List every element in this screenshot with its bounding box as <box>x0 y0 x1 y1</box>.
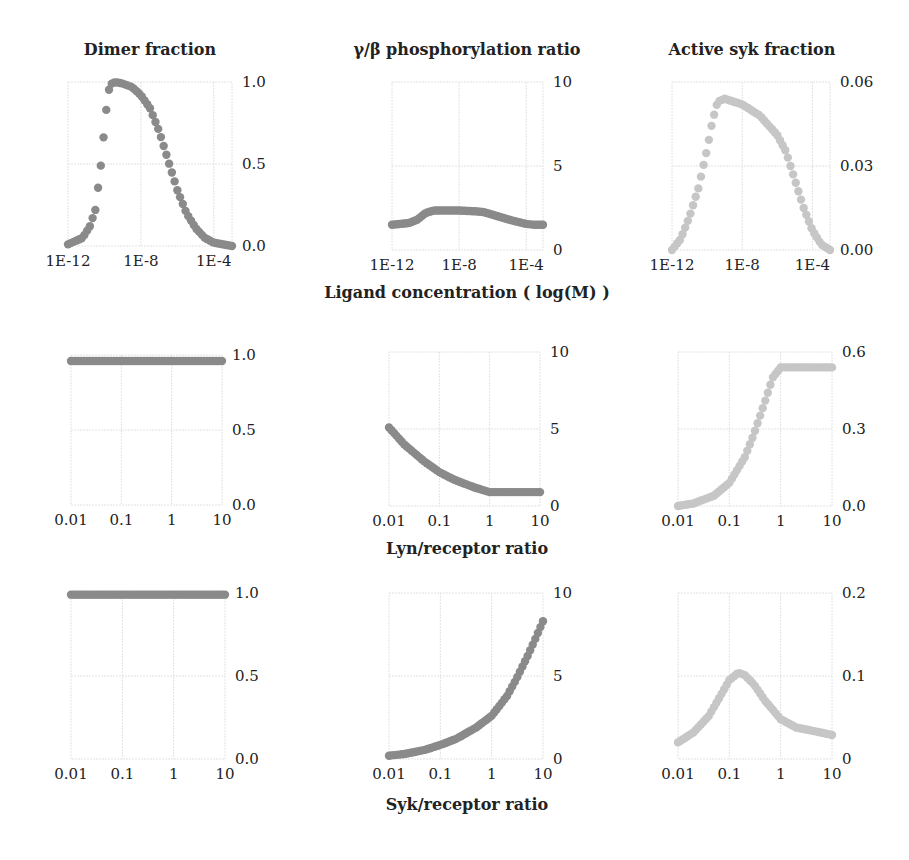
data-point <box>707 122 715 130</box>
subplot-r3c3: 0.010.111000.10.2 <box>661 584 866 783</box>
y-tick-label: 0 <box>553 750 563 768</box>
y-tick-label: 0.2 <box>842 584 866 602</box>
x-tick-label: 0.01 <box>372 765 405 783</box>
subplot-r3c1: 0.010.11100.00.51.0 <box>54 584 259 783</box>
x-tick-label: 1E-4 <box>509 256 544 274</box>
data-point <box>99 133 107 141</box>
y-tick-label: 0.0 <box>235 750 259 768</box>
data-point <box>705 136 713 144</box>
x-tick-label: 1E-8 <box>123 252 158 270</box>
data-point <box>697 172 705 180</box>
y-tick-label: 0.1 <box>842 667 866 685</box>
y-tick-label: 0.5 <box>235 667 259 685</box>
x-tick-label: 10 <box>212 511 231 529</box>
x-tick-label: 1 <box>485 512 495 530</box>
x-tick-label: 1 <box>776 512 786 530</box>
data-point <box>228 242 236 250</box>
data-point <box>764 388 772 396</box>
data-point <box>88 214 96 222</box>
y-tick-label: 10 <box>553 73 572 91</box>
y-tick-label: 0.0 <box>242 237 266 255</box>
x-tick-label: 10 <box>530 512 549 530</box>
data-point <box>91 206 99 214</box>
x-tick-label: 1E-12 <box>46 252 91 270</box>
chart-figure: 1E-121E-81E-40.00.51.01E-121E-81E-405101… <box>0 0 909 860</box>
y-tick-label: 0 <box>550 497 560 515</box>
y-tick-label: 10 <box>553 584 572 602</box>
data-point <box>539 221 547 229</box>
x-tick-label: 1E-8 <box>725 256 760 274</box>
data-point <box>828 731 836 739</box>
data-point <box>786 162 794 170</box>
x-tick-label: 1E-12 <box>370 256 415 274</box>
data-point <box>761 396 769 404</box>
data-point <box>684 217 692 225</box>
data-point <box>826 246 834 254</box>
data-point <box>97 161 105 169</box>
y-tick-label: 0 <box>553 241 563 259</box>
data-point <box>102 106 110 114</box>
x-tick-label: 1E-8 <box>441 256 476 274</box>
data-point <box>694 184 702 192</box>
y-tick-label: 0.03 <box>840 157 873 175</box>
subplot-r1c3: 1E-121E-81E-40.000.030.06 <box>650 73 874 274</box>
data-point <box>159 142 167 150</box>
x-tick-label: 0.1 <box>717 512 741 530</box>
data-point <box>781 146 789 154</box>
data-point <box>702 149 710 157</box>
data-point <box>170 177 178 185</box>
y-tick-label: 5 <box>553 667 563 685</box>
data-point <box>794 187 802 195</box>
y-tick-label: 0.5 <box>232 421 256 439</box>
x-tick-label: 0.01 <box>54 511 87 529</box>
y-tick-label: 1.0 <box>242 73 266 91</box>
x-tick-label: 0.1 <box>717 765 741 783</box>
subplot-r2c2: 0.010.11100510 <box>372 343 569 530</box>
data-point <box>94 184 102 192</box>
data-point <box>753 419 761 427</box>
data-point <box>766 381 774 389</box>
x-tick-label: 1 <box>167 511 177 529</box>
data-point <box>539 617 547 625</box>
data-point <box>86 222 94 230</box>
data-point <box>789 170 797 178</box>
y-tick-label: 0.0 <box>842 497 866 515</box>
data-point <box>692 193 700 201</box>
y-tick-label: 0.0 <box>232 496 256 514</box>
y-tick-label: 0.6 <box>842 343 866 361</box>
data-point <box>157 133 165 141</box>
subplot-r2c3: 0.010.11100.00.30.6 <box>661 343 866 530</box>
data-point <box>710 110 718 118</box>
x-tick-label: 0.01 <box>661 765 694 783</box>
y-tick-label: 0.00 <box>840 241 873 259</box>
subplot-r1c2: 1E-121E-81E-40510 <box>370 73 573 274</box>
data-point <box>536 488 544 496</box>
x-tick-label: 1 <box>487 765 497 783</box>
x-tick-label: 10 <box>533 765 552 783</box>
y-tick-label: 0.06 <box>840 73 873 91</box>
data-point <box>686 209 694 217</box>
y-tick-label: 5 <box>550 420 560 438</box>
data-point <box>797 195 805 203</box>
x-tick-label: 1 <box>169 765 179 783</box>
x-tick-label: 0.1 <box>110 765 134 783</box>
x-tick-label: 0.01 <box>661 512 694 530</box>
y-tick-label: 0.3 <box>842 420 866 438</box>
data-point <box>689 201 697 209</box>
x-tick-label: 1 <box>776 765 786 783</box>
data-point <box>218 357 226 365</box>
x-tick-label: 10 <box>822 512 841 530</box>
data-point <box>221 590 229 598</box>
x-tick-label: 1E-12 <box>650 256 695 274</box>
y-tick-label: 1.0 <box>232 346 256 364</box>
x-tick-label: 0.01 <box>54 765 87 783</box>
x-tick-label: 1E-4 <box>795 256 830 274</box>
data-point <box>759 404 767 412</box>
data-point <box>751 426 759 434</box>
y-tick-label: 10 <box>550 343 569 361</box>
data-point <box>792 179 800 187</box>
x-tick-label: 0.1 <box>109 511 133 529</box>
x-tick-label: 1E-4 <box>196 252 231 270</box>
data-point <box>784 153 792 161</box>
data-point <box>699 161 707 169</box>
